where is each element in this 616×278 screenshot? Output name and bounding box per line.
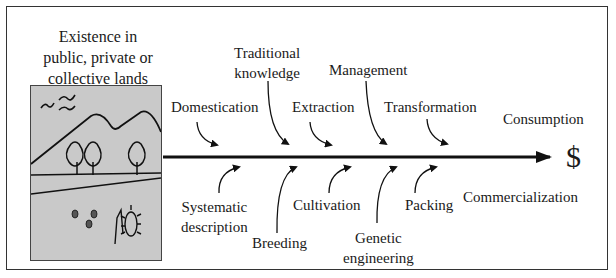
step-systematic-description: Systematic description — [181, 197, 248, 237]
arrow-genetic-engineering-icon — [377, 167, 396, 223]
dollar-icon: $ — [566, 140, 581, 174]
step-extraction: Extraction — [292, 98, 354, 117]
arrow-management-icon — [366, 81, 386, 144]
step-transformation: Transformation — [384, 98, 477, 117]
step-packing: Packing — [405, 196, 453, 215]
step-label-line: Systematic — [181, 197, 248, 217]
arrows-layer — [0, 0, 616, 278]
end-label-commercialization: Commercialization — [463, 188, 578, 207]
step-breeding: Breeding — [252, 234, 307, 253]
step-label-line: Genetic — [343, 228, 414, 248]
step-label-line: engineering — [343, 248, 414, 268]
arrow-systematic-description-icon — [219, 167, 239, 193]
step-management: Management — [329, 61, 407, 80]
arrow-cultivation-icon — [329, 167, 350, 193]
arrow-packing-icon — [415, 167, 436, 193]
step-domestication: Domestication — [171, 98, 258, 117]
step-label-line: description — [181, 217, 248, 237]
end-label-consumption: Consumption — [503, 110, 584, 129]
arrow-transformation-icon — [427, 119, 447, 144]
arrow-domestication-icon — [197, 122, 217, 145]
step-label-line: knowledge — [234, 63, 300, 83]
arrow-extraction-icon — [310, 122, 331, 145]
arrow-traditional-knowledge-icon — [268, 81, 288, 144]
step-label-line: Traditional — [234, 43, 300, 63]
step-cultivation: Cultivation — [293, 196, 361, 215]
step-genetic-engineering: Genetic engineering — [343, 228, 414, 268]
step-traditional-knowledge: Traditional knowledge — [234, 43, 300, 83]
